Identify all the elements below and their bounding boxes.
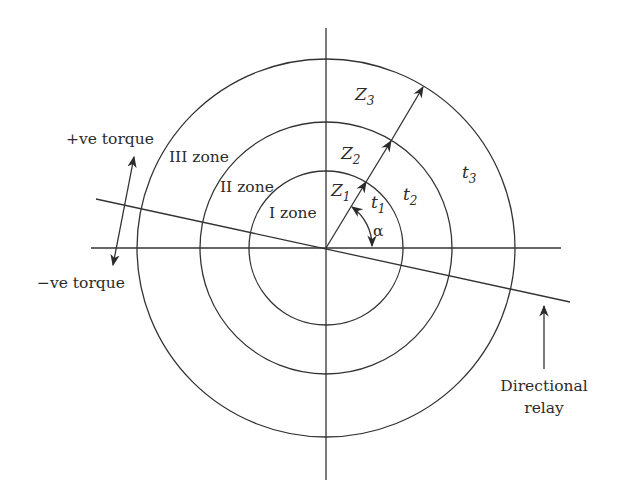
zone1-label: I zone xyxy=(269,204,317,222)
z1-label: Z1 xyxy=(330,180,350,204)
torque-double-arrow xyxy=(113,157,134,265)
z3-label: Z3 xyxy=(354,84,375,108)
t1-label: t1 xyxy=(371,192,385,216)
directional-relay-line xyxy=(96,199,570,302)
t3-label: t3 xyxy=(462,162,477,186)
t2-label: t2 xyxy=(403,184,417,208)
z3-arrow xyxy=(391,87,423,141)
directional-relay-label-line1: Directional xyxy=(500,377,587,395)
zone2-label: II zone xyxy=(220,178,274,196)
alpha-label: α xyxy=(373,222,384,240)
directional-relay-label-line2: relay xyxy=(524,399,564,417)
positive-torque-label: +ve torque xyxy=(66,130,154,148)
negative-torque-label: −ve torque xyxy=(37,274,125,292)
zone3-label: III zone xyxy=(169,148,229,166)
alpha-angle-arc xyxy=(352,207,372,246)
z2-label: Z2 xyxy=(340,143,360,167)
zone-diagram: I zone II zone III zone Z1 Z2 Z3 t1 t2 t… xyxy=(0,0,634,499)
z2-arrow xyxy=(366,141,391,182)
